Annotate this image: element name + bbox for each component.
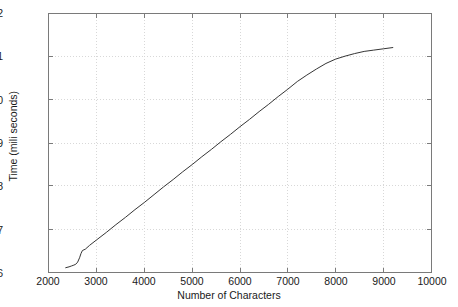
x-tick-label: 8000 xyxy=(324,276,347,287)
x-tick-label: 10000 xyxy=(417,276,446,287)
x-tick-label: 2000 xyxy=(36,276,59,287)
x-axis-title: Number of Characters xyxy=(0,290,458,301)
y-axis-title-wrap: Time (mili seconds) xyxy=(0,0,26,273)
x-tick-label: 6000 xyxy=(228,276,251,287)
chart-figure: 2000300040005000600070008000900010000 67… xyxy=(0,0,458,307)
x-tick-label: 4000 xyxy=(132,276,155,287)
x-tick-label: 7000 xyxy=(276,276,299,287)
y-axis-title: Time (mili seconds) xyxy=(8,91,19,182)
data-line xyxy=(66,48,393,268)
data-series-layer xyxy=(49,14,431,272)
x-tick-label: 9000 xyxy=(372,276,395,287)
plot-area xyxy=(48,13,432,273)
x-tick-label: 5000 xyxy=(180,276,203,287)
x-tick-label: 3000 xyxy=(84,276,107,287)
